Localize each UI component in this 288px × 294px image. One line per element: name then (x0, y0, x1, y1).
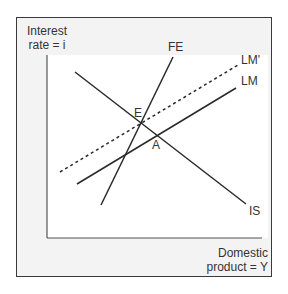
fe-label: FE (168, 40, 183, 54)
is-lm-fe-diagram: FE LM' LM IS E A (0, 0, 288, 294)
is-label: IS (249, 204, 260, 218)
is-curve (75, 72, 246, 204)
lm-curve (77, 88, 236, 184)
lm-prime-label: LM' (241, 53, 260, 67)
point-a-label: A (152, 138, 160, 152)
fe-curve (101, 57, 173, 205)
point-e-label: E (134, 106, 142, 120)
lm-label: LM (241, 74, 258, 88)
